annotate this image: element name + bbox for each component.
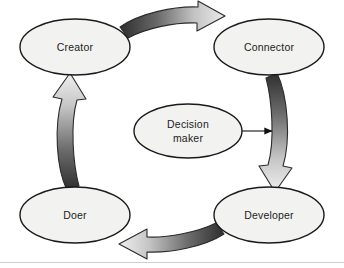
node-decision-maker[interactable]: Decision maker [134,104,242,158]
arrow-doer-to-creator [53,73,86,190]
process-cycle-diagram: Creator Connector Developer Doer Decisio… [0,0,344,268]
arrow-creator-to-connector [120,1,225,38]
node-doer-label: Doer [63,209,87,221]
arrow-developer-to-doer [119,223,224,259]
node-doer[interactable]: Doer [20,187,130,243]
node-developer-label: Developer [244,209,294,221]
diagram-canvas: Creator Connector Developer Doer Decisio… [0,0,344,268]
arrow-connector-to-developer [259,73,292,192]
node-developer[interactable]: Developer [214,187,324,243]
node-decision-maker-label-line1: Decision [167,118,209,130]
node-connector-label: Connector [244,41,295,53]
node-creator-label: Creator [57,41,94,53]
node-creator[interactable]: Creator [20,19,130,75]
node-decision-maker-label-line2: maker [173,132,203,144]
node-connector[interactable]: Connector [214,19,324,75]
